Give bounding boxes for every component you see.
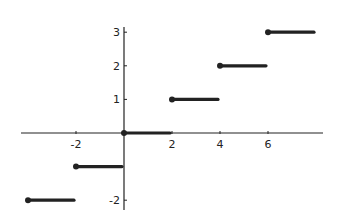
y-tick-label: -2: [109, 194, 120, 207]
x-tick-label: -2: [71, 138, 82, 151]
closed-endpoint-dot: [73, 164, 79, 170]
step-segments: [25, 29, 314, 203]
closed-endpoint-dot: [265, 29, 271, 35]
closed-endpoint-dot: [25, 197, 31, 203]
closed-endpoint-dot: [217, 63, 223, 69]
x-tick-label: 4: [217, 138, 224, 151]
x-tick-label: 6: [265, 138, 272, 151]
step-function-chart: -2246-2123: [0, 0, 340, 220]
y-tick-label: 2: [113, 60, 120, 73]
y-tick-label: 3: [113, 26, 120, 39]
ticks: -2246-2123: [71, 26, 272, 207]
y-tick-label: 1: [113, 93, 120, 106]
x-tick-label: 2: [169, 138, 176, 151]
axes: [21, 27, 323, 210]
closed-endpoint-dot: [169, 96, 175, 102]
closed-endpoint-dot: [121, 130, 127, 136]
